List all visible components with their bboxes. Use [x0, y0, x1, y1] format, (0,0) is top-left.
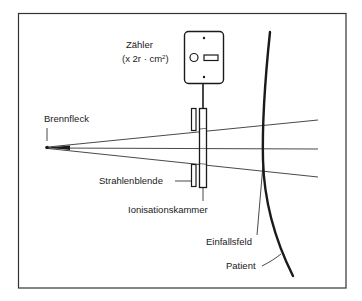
collimator-label: Strahlenblende [99, 175, 163, 186]
entrance-field-leader-line [257, 165, 263, 235]
counter-device [185, 32, 224, 84]
ionization-chamber-label: Ionisationskammer [128, 204, 208, 215]
patient-leader-line [262, 254, 281, 266]
ionization-chamber [200, 109, 207, 188]
diagram-svg [0, 0, 362, 301]
entrance-field-label: Einfallsfeld [206, 236, 252, 247]
collimator-jaw-upper [192, 109, 197, 131]
ray-lower [48, 149, 318, 178]
focal-spot-label: Brennfleck [44, 113, 89, 124]
collimator-jaw-lower [192, 165, 197, 187]
counter-unit-suffix: ) [165, 53, 168, 64]
ray-upper [48, 120, 318, 147]
patient-label: Patient [226, 260, 256, 271]
counter-unit-label: (x 2r · cm2) [122, 52, 169, 64]
counter-screw-bottom [203, 76, 205, 78]
ray-central [48, 148, 318, 149]
counter-title-label: Zähler [126, 39, 153, 50]
counter-screw-top [203, 37, 205, 39]
diagram-canvas: Zähler (x 2r · cm2) Brennfleck Strahlenb… [0, 0, 362, 301]
patient-surface-curve [263, 32, 293, 276]
x-ray-beam [48, 120, 318, 177]
counter-unit-prefix: (x 2r · cm [122, 53, 162, 64]
focal-spot-icon [45, 146, 49, 150]
